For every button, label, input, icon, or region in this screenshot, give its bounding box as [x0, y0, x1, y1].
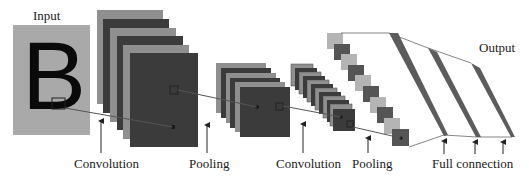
pool2-label: Pooling [352, 156, 393, 171]
pool1-stack [216, 63, 290, 137]
output-label: Output [479, 40, 516, 55]
conv2-label: Convolution [276, 156, 342, 171]
pool1-front-map [240, 87, 290, 137]
cnn-diagram: Input B [0, 0, 529, 180]
conv1-label: Convolution [74, 156, 140, 171]
conv2-stack [291, 64, 355, 131]
conv1-stack [97, 10, 198, 147]
input-stage: Input B [13, 8, 90, 135]
fc-layer-2 [428, 48, 481, 137]
fc-label: Full connection [432, 156, 514, 171]
input-letter: B [22, 22, 86, 129]
fc-layer-3 [471, 63, 515, 137]
input-label: Input [33, 8, 61, 23]
pool1-label: Pooling [189, 156, 230, 171]
conv2-front-map [333, 109, 355, 131]
conv1-front-map [130, 53, 198, 147]
